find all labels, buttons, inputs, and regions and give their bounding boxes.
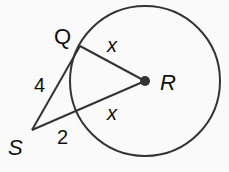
- label-qr-length: x: [106, 34, 118, 56]
- label-s: S: [8, 135, 23, 160]
- label-external-segment: 2: [57, 126, 68, 148]
- label-sq-length: 4: [34, 74, 45, 96]
- label-r: R: [160, 70, 176, 95]
- circle-tangent-figure: Q R S 4 x x 2: [0, 0, 229, 172]
- segment-sr: [32, 81, 145, 130]
- center-point-r: [140, 76, 150, 86]
- label-radius-lower: x: [106, 102, 118, 124]
- label-q: Q: [54, 24, 71, 49]
- geometry-diagram: Q R S 4 x x 2: [0, 0, 229, 172]
